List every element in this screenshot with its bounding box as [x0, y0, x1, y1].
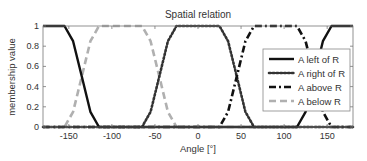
- y-tick-label: 0.4: [26, 82, 39, 92]
- y-tick-label: 0.8: [26, 41, 39, 51]
- x-tick-label: 100: [277, 131, 292, 141]
- x-axis-label: Angle [°]: [180, 143, 216, 154]
- y-tick-label: 0: [34, 122, 39, 132]
- x-tick-label: 150: [320, 131, 335, 141]
- y-tick-label: 1: [34, 21, 39, 31]
- legend-label: A left of R: [298, 54, 339, 65]
- y-axis-label: membership value: [6, 38, 17, 116]
- x-tick-label: 0: [195, 131, 200, 141]
- legend-label: A above R: [298, 82, 342, 93]
- y-tick-label: 0.2: [26, 102, 39, 112]
- x-tick-label: -150: [60, 131, 78, 141]
- y-tick-label: 0.6: [26, 61, 39, 71]
- legend-label: A right of R: [298, 68, 345, 79]
- x-tick-label: -100: [103, 131, 121, 141]
- membership-chart: Spatial relation 00.20.40.60.81 -150-100…: [0, 0, 367, 161]
- legend-label: A below R: [298, 96, 341, 107]
- legend: A left of RA right of RA above RA below …: [263, 49, 350, 111]
- x-tick-label: -50: [148, 131, 161, 141]
- chart-title: Spatial relation: [165, 9, 231, 20]
- x-tick-label: 50: [236, 131, 246, 141]
